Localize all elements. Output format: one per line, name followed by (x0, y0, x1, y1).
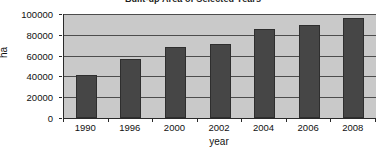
bar (299, 25, 320, 118)
x-axis-tick-label: 2000 (164, 122, 185, 133)
y-axis-tick-mark (59, 118, 62, 119)
x-axis-label: year (63, 136, 375, 147)
bar (343, 18, 364, 118)
x-axis-tick-labels: 1990199620002002200420062008 (63, 122, 375, 136)
y-axis-tick-mark (59, 35, 62, 36)
y-axis-tick-mark (59, 97, 62, 98)
bar (165, 47, 186, 118)
x-axis-tick-label: 1996 (119, 122, 140, 133)
y-axis-tick-label: 60000 (27, 50, 53, 61)
x-axis-tick-label: 2002 (208, 122, 229, 133)
x-axis-tick-label: 2006 (298, 122, 319, 133)
x-axis-tick-mark (375, 119, 376, 122)
y-axis-tick-mark (59, 56, 62, 57)
x-axis-tick-label: 2004 (253, 122, 274, 133)
bar (120, 59, 141, 118)
y-axis-tick-label: 40000 (27, 71, 53, 82)
bar-chart: Built-up Area of Selected Years ha 02000… (0, 0, 386, 156)
x-axis-tick-label: 1990 (75, 122, 96, 133)
bar (76, 75, 97, 118)
y-axis-tick-labels: 020000400006000080000100000 (0, 0, 59, 156)
y-axis-tick-label: 80000 (27, 29, 53, 40)
bar (254, 29, 275, 118)
bar (210, 44, 231, 118)
bars-group (64, 14, 376, 118)
y-axis-tick-label: 0 (48, 113, 53, 124)
plot-area (63, 14, 376, 119)
y-axis-tick-label: 20000 (27, 92, 53, 103)
y-axis-tick-mark (59, 76, 62, 77)
y-axis-tick-label: 100000 (21, 9, 53, 20)
x-axis-tick-label: 2008 (342, 122, 363, 133)
y-axis-tick-mark (59, 14, 62, 15)
